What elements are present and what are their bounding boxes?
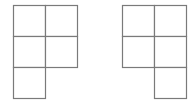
grid-cell xyxy=(14,68,46,99)
grid-cell xyxy=(123,37,155,68)
grid-cell xyxy=(155,68,187,99)
grid-cell xyxy=(46,37,78,68)
diagram-canvas xyxy=(0,0,193,105)
left-pentomino xyxy=(14,6,78,99)
grid-cell xyxy=(123,6,155,37)
grid-cell xyxy=(155,6,187,37)
grid-cell xyxy=(155,37,187,68)
right-pentomino xyxy=(123,6,187,99)
grid-cell xyxy=(46,6,78,37)
grid-cell xyxy=(14,37,46,68)
grid-cell xyxy=(14,6,46,37)
